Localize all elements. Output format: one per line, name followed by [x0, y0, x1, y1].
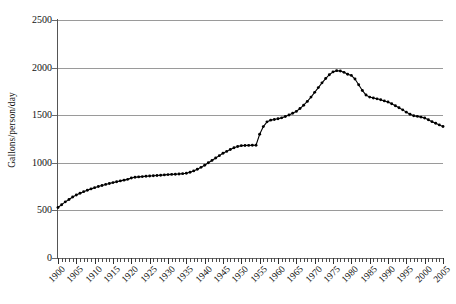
data-point	[112, 181, 115, 184]
data-point	[361, 89, 364, 92]
data-point	[354, 78, 357, 81]
data-point	[302, 104, 305, 107]
x-tick-1977	[340, 258, 341, 262]
data-point	[376, 97, 379, 100]
data-point	[156, 174, 159, 177]
x-tick-1991	[392, 258, 393, 262]
x-tick-1946	[227, 258, 228, 262]
x-tick-1963	[289, 258, 290, 262]
data-point	[148, 175, 151, 178]
x-tick-1943	[216, 258, 217, 262]
x-tick-label-1900: 1900	[43, 264, 67, 288]
x-tick-label-1990: 1990	[373, 264, 397, 288]
data-point	[427, 118, 430, 121]
data-point	[93, 186, 96, 189]
x-tick-label-1935: 1935	[171, 264, 195, 288]
x-tick-1932	[175, 258, 176, 262]
x-tick-1916	[117, 258, 118, 262]
data-point	[68, 198, 71, 201]
x-tick-1912	[102, 258, 103, 262]
data-point	[229, 148, 232, 151]
x-tick-1904	[73, 258, 74, 262]
x-tick-1999	[421, 258, 422, 262]
x-tick-label-1925: 1925	[135, 264, 159, 288]
x-tick-1997	[414, 258, 415, 262]
data-point	[291, 112, 294, 115]
x-tick-2002	[432, 258, 433, 262]
x-tick-1909	[91, 258, 92, 262]
x-tick-label-1955: 1955	[245, 264, 269, 288]
x-tick-1984	[366, 258, 367, 262]
data-point	[295, 110, 298, 113]
data-point	[321, 81, 324, 84]
x-tick-label-1910: 1910	[80, 264, 104, 288]
data-point	[86, 189, 89, 192]
data-point	[332, 70, 335, 73]
x-tick-1908	[87, 258, 88, 262]
x-tick-1918	[124, 258, 125, 262]
data-point	[126, 178, 129, 181]
data-point	[60, 203, 63, 206]
data-point	[416, 115, 419, 118]
x-tick-1901	[62, 258, 63, 262]
data-point	[269, 119, 272, 122]
data-point	[442, 125, 445, 128]
data-point	[350, 74, 353, 77]
x-tick-1971	[318, 258, 319, 262]
data-point	[251, 144, 254, 147]
x-tick-1967	[304, 258, 305, 262]
y-tick-label-500: 500	[16, 205, 52, 215]
data-point	[141, 175, 144, 178]
x-tick-1923	[142, 258, 143, 262]
data-point	[64, 200, 67, 203]
x-tick-1987	[377, 258, 378, 262]
x-tick-1988	[381, 258, 382, 262]
y-tick-label-2000: 2000	[16, 63, 52, 73]
x-tick-1981	[355, 258, 356, 262]
data-point	[159, 174, 162, 177]
x-tick-1994	[403, 258, 404, 262]
data-point	[328, 73, 331, 76]
data-point	[258, 133, 261, 136]
x-tick-1922	[139, 258, 140, 262]
data-point	[170, 173, 173, 176]
data-point	[262, 125, 265, 128]
x-tick-label-1950: 1950	[226, 264, 250, 288]
data-point	[189, 171, 192, 174]
x-tick-label-1975: 1975	[318, 264, 342, 288]
y-tick-label-2500: 2500	[16, 15, 52, 25]
x-tick-label-1960: 1960	[263, 264, 287, 288]
data-point	[280, 116, 283, 119]
x-tick-1983	[362, 258, 363, 262]
x-tick-1972	[322, 258, 323, 262]
x-tick-label-1980: 1980	[336, 264, 360, 288]
data-point	[97, 185, 100, 188]
data-point	[123, 179, 126, 182]
data-point	[82, 190, 85, 193]
x-tick-1913	[106, 258, 107, 262]
data-point	[310, 96, 313, 99]
y-tick-label-1000: 1000	[16, 158, 52, 168]
x-tick-1933	[179, 258, 180, 262]
data-point	[108, 182, 111, 185]
x-tick-1998	[417, 258, 418, 262]
x-tick-1954	[256, 258, 257, 262]
x-tick-2003	[436, 258, 437, 262]
data-series-line	[58, 20, 443, 258]
data-point	[383, 99, 386, 102]
x-tick-1924	[146, 258, 147, 262]
x-tick-1928	[161, 258, 162, 262]
data-point	[398, 106, 401, 109]
data-point	[214, 157, 217, 160]
data-point	[434, 122, 437, 125]
data-point	[185, 172, 188, 175]
x-tick-1941	[208, 258, 209, 262]
x-tick-label-1995: 1995	[391, 264, 415, 288]
x-tick-1936	[190, 258, 191, 262]
x-tick-1907	[84, 258, 85, 262]
x-tick-1934	[183, 258, 184, 262]
x-tick-1973	[326, 258, 327, 262]
data-point	[75, 194, 78, 197]
x-tick-1956	[263, 258, 264, 262]
data-point	[339, 69, 342, 72]
